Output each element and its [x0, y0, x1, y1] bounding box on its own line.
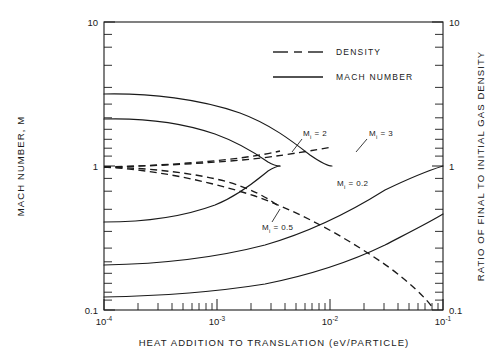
- right-tick-label-1: 1: [449, 161, 454, 172]
- legend-label-density: DENSITY: [336, 47, 381, 57]
- bottom-tick-label-1e-2: 10-2: [322, 315, 339, 327]
- label-mi-2: Mi = 2: [303, 129, 327, 140]
- left-tick-label-10: 10: [87, 17, 98, 28]
- bottom-axis-ticks: [104, 299, 443, 310]
- series-mach-number: [104, 94, 443, 297]
- legend: DENSITY MACH NUMBER: [273, 47, 413, 82]
- leader-mi-3: [356, 139, 367, 152]
- curve-mach-mi05: [104, 166, 280, 222]
- y-axis-title-left: MACH NUMBER, M: [15, 116, 26, 216]
- left-tick-label-0.1: 0.1: [85, 305, 98, 316]
- leader-mi-0.5: [272, 209, 280, 222]
- chart-figure: 10 1 0.1 10 1 0.1: [0, 0, 500, 356]
- left-tick-label-1: 1: [93, 161, 98, 172]
- curve-annotations: Mi = 2 Mi = 3 Mi = 0.2 Mi = 0.5: [262, 129, 393, 234]
- label-mi-0.5: Mi = 0.5: [262, 223, 294, 234]
- curve-mach-mi02: [104, 166, 443, 265]
- curve-density-mi3: [104, 147, 332, 167]
- leader-mi-2: [292, 139, 302, 152]
- x-axis-title: HEAT ADDITION TO TRANSLATION (eV/PARTICL…: [139, 337, 410, 348]
- bottom-tick-labels: 10-4 10-3 10-2 10-1: [96, 315, 452, 327]
- curve-mach-mi3: [104, 94, 332, 166]
- bottom-tick-label-1e-1: 10-1: [435, 315, 452, 327]
- legend-label-mach-number: MACH NUMBER: [336, 72, 413, 82]
- curve-density-mi02: [104, 167, 433, 308]
- label-mi-0.2: Mi = 0.2: [337, 179, 369, 190]
- curve-density-mi05: [104, 167, 280, 207]
- bottom-tick-label-1e-3: 10-3: [209, 315, 226, 327]
- bottom-tick-label-1e-4: 10-4: [96, 315, 113, 327]
- right-tick-label-10: 10: [449, 17, 460, 28]
- y-axis-title-right: RATIO OF FINAL TO INITIAL GAS DENSITY: [475, 51, 486, 282]
- left-axis-ticks: [104, 22, 115, 310]
- label-mi-3: Mi = 3: [369, 129, 393, 140]
